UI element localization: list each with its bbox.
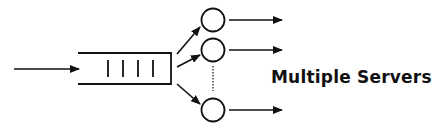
queue-diagram-graphic (0, 0, 433, 130)
queue-slots (108, 60, 153, 77)
server-1-circle (202, 9, 225, 32)
server-2-circle (202, 39, 225, 62)
queue-outline (78, 53, 171, 84)
multi-server-queue-diagram: Multiple Servers (0, 0, 433, 130)
dispatch-arrow-2 (177, 55, 200, 67)
queue-buffer (78, 53, 171, 84)
server-n-circle (202, 99, 225, 122)
departure-arrows (229, 20, 282, 110)
servers (202, 9, 225, 122)
dispatch-arrow-3 (177, 84, 200, 104)
dispatch-arrow-1 (177, 27, 200, 54)
dispatch-arrows (177, 27, 200, 104)
multiple-servers-label: Multiple Servers (271, 67, 432, 87)
